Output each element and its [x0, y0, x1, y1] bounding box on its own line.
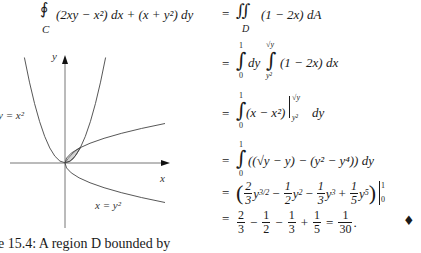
frac-4: 15 [313, 209, 321, 235]
inner-integrand: (1 − 2x) dx [280, 56, 338, 69]
result-fraction: 130 [338, 209, 352, 235]
outer-integral-sign: ∫ [236, 50, 246, 70]
coef-4: 15 [350, 180, 358, 206]
eval-lower: y² [292, 114, 298, 122]
region-subscript: D [242, 24, 249, 34]
sideways-parabola-label: x = y² [94, 199, 122, 211]
frac-1: 23 [237, 209, 245, 235]
outer-differential: dy [248, 56, 260, 69]
step-5: ( 23 y3/2 − 12 y2 − 13 y3 + 15 y5 ) 1 0 [236, 178, 385, 208]
region-figure: y x y = x² x = y² [0, 0, 200, 240]
frac-3: 13 [288, 209, 296, 235]
eval-bar [289, 96, 290, 118]
step-2: 1 ∫ 0 dy √y ∫ y² (1 − 2x) dx [236, 40, 421, 80]
step-4-integrand: ((√y − y) − (y² − y⁴)) dy [248, 154, 374, 167]
step-3: 1 ∫ 0 (x − x²) √y y² dy [236, 90, 421, 130]
integral-sign: ∫ [236, 100, 246, 120]
integral-sign: ∫ [236, 148, 246, 168]
eval-upper: 1 [381, 179, 385, 193]
lower-limit: 0 [239, 122, 243, 130]
figure-caption: e 15.4: A region D bounded by [0, 236, 170, 252]
step-4: 1 ∫ 0 ((√y − y) − (y² − y⁴)) dy [236, 140, 421, 180]
eval-bar [379, 181, 380, 205]
y-axis-arrow-icon [62, 55, 68, 64]
x-axis-arrow-icon [161, 160, 170, 166]
eval-lower: 0 [381, 193, 385, 207]
step-3-differential: dy [312, 106, 324, 119]
open-paren: ( [236, 182, 243, 204]
equals-2: = [222, 56, 229, 72]
lower-limit: 0 [239, 170, 243, 178]
inner-integral-sign: ∫ [266, 50, 276, 70]
x-axis-label: x [159, 172, 165, 184]
coef-2: 12 [284, 180, 292, 206]
step-1: ∬ D (1 − 2x) dA [236, 0, 416, 40]
coef-1: 23 [244, 180, 252, 206]
frac-2: 12 [262, 209, 270, 235]
step-6: 23 − 12 − 13 + 15 = 130 . [236, 207, 357, 237]
equals-4: = [222, 153, 229, 169]
end-of-proof-diamond-icon: ♦ [403, 213, 415, 228]
close-paren: ) [369, 182, 376, 204]
parabola-label: y = x² [0, 109, 25, 121]
equals-1: = [222, 6, 229, 22]
outer-lower-limit: 0 [239, 72, 243, 80]
y-axis-label: y [51, 50, 57, 62]
inner-lower-limit: y² [266, 72, 272, 80]
equals-5: = [222, 185, 229, 201]
antiderivative: (x − x²) [246, 106, 285, 119]
equals-6: = [222, 211, 229, 227]
step-1-integrand: (1 − 2x) dA [261, 8, 321, 21]
equals-3: = [222, 106, 229, 122]
coef-3: 13 [317, 180, 325, 206]
shaded-region-d [65, 147, 81, 163]
eval-upper: √y [292, 94, 300, 102]
double-integral-sign: ∬ [236, 2, 250, 19]
